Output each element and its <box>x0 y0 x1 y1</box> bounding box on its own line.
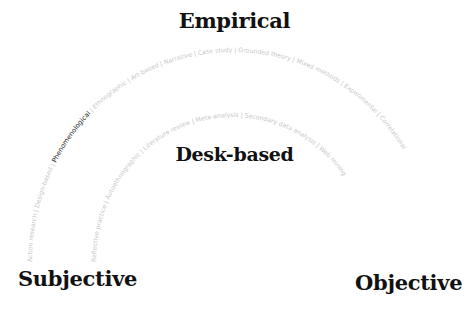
methodology-arcs: Action research | Design-based | Phenome… <box>0 0 469 311</box>
inner_arc-item[interactable]: Meta-analysis <box>195 111 239 123</box>
inner-arc: Reflective practice | Autoethnographic |… <box>90 111 348 262</box>
inner_arc-item[interactable]: Autoethnographic <box>104 150 142 200</box>
outer_arc-item[interactable]: Correlational <box>378 114 408 151</box>
outer_arc-item[interactable]: Grounded theory <box>238 46 292 63</box>
outer_arc-item[interactable]: Action research <box>26 213 38 262</box>
outer_arc-item[interactable]: Case study <box>197 46 233 56</box>
outer_arc-item[interactable]: Ethnographic <box>91 78 128 110</box>
inner_arc-item[interactable]: Reflective practice <box>90 203 108 262</box>
svg-text:Action research | Design-bas: Action research | Design-based | Phenome… <box>26 46 408 262</box>
inner_arc-item[interactable]: Literature review <box>141 118 191 151</box>
separator: | <box>238 111 245 119</box>
outer_arc-item[interactable]: Narrative <box>163 50 193 65</box>
inner_arc-item[interactable]: Web mining <box>318 144 348 177</box>
outer_arc-item[interactable]: Art-based <box>129 61 159 81</box>
separator: | <box>232 46 238 54</box>
outer_arc-item[interactable]: Design-based <box>33 166 54 209</box>
outer_arc-item[interactable]: Phenomenological <box>50 109 92 164</box>
inner_arc-item[interactable]: Secondary data analysis <box>244 112 317 146</box>
outer_arc-item[interactable]: Experimental <box>343 82 380 115</box>
svg-text:Reflective practice | Autoet: Reflective practice | Autoethnographic |… <box>90 111 348 262</box>
outer_arc-item[interactable]: Mixed methods <box>296 57 342 84</box>
outer-arc: Action research | Design-based | Phenome… <box>26 46 408 262</box>
